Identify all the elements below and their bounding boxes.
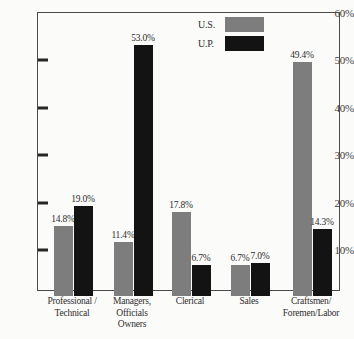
bar-value-label: 49.4%: [290, 50, 314, 60]
bar-rect: [172, 212, 191, 296]
bar-rect: [114, 242, 133, 296]
bar-rect: [313, 229, 332, 297]
bar-group: 11.4%53.0%: [114, 45, 153, 296]
bar-value-label: 11.4%: [111, 230, 134, 240]
category-label-line: Foremen/Labor: [271, 308, 351, 320]
bar-up: 7.0%: [251, 263, 270, 296]
legend-entry: U.P.: [198, 36, 264, 51]
bar-rect: [54, 226, 73, 296]
bar-value-label: 6.7%: [192, 253, 211, 263]
bar-up: 14.3%: [313, 229, 332, 297]
category-label: Craftsmen/Foremen/Labor: [271, 296, 351, 319]
bar-value-label: 7.0%: [251, 251, 270, 261]
legend-swatch: [225, 36, 264, 51]
bar-group: 14.8%19.0%: [54, 206, 93, 296]
bar-us: 6.7%: [231, 265, 250, 297]
bar-up: 19.0%: [74, 206, 93, 296]
bar-rect: [231, 265, 250, 297]
bar-value-label: 14.8%: [51, 214, 75, 224]
bar-value-label: 53.0%: [131, 33, 155, 43]
bar-group: 17.8%6.7%: [172, 212, 211, 296]
bar-group: 6.7%7.0%: [231, 263, 270, 296]
bar-us: 14.8%: [54, 226, 73, 296]
legend-label: U.P.: [198, 38, 218, 49]
bar-value-label: 19.0%: [71, 194, 95, 204]
category-label-line: Owners: [92, 319, 172, 331]
plot-area: 14.8%19.0%11.4%53.0%17.8%6.7%6.7%7.0%49.…: [37, 12, 340, 291]
bar-value-label: 14.3%: [310, 217, 334, 227]
bar-us: 49.4%: [293, 62, 312, 296]
bar-chart: 60%50%40%30%20%10% 14.8%19.0%11.4%53.0%1…: [0, 0, 354, 339]
bar-rect: [293, 62, 312, 296]
bar-rect: [74, 206, 93, 296]
bar-group: 49.4%14.3%: [293, 62, 332, 296]
bar-value-label: 17.8%: [169, 200, 193, 210]
legend-entry: U.S.: [198, 17, 264, 32]
chart-legend: U.S.U.P.: [198, 17, 264, 51]
category-label-line: Officials: [92, 308, 172, 320]
bar-rect: [251, 263, 270, 296]
bar-rect: [192, 265, 211, 297]
legend-swatch: [225, 17, 264, 32]
bar-up: 6.7%: [192, 265, 211, 297]
bar-up: 53.0%: [134, 45, 153, 296]
bar-us: 11.4%: [114, 242, 133, 296]
category-label-line: Craftsmen/: [271, 296, 351, 308]
legend-label: U.S.: [198, 19, 218, 30]
bar-us: 17.8%: [172, 212, 191, 296]
bar-rect: [134, 45, 153, 296]
bar-value-label: 6.7%: [231, 253, 250, 263]
